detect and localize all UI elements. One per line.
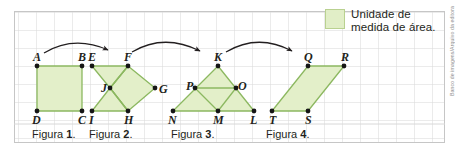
caption-figura-3: Figura 3. [171, 129, 214, 140]
vertex-label-j: J [101, 82, 107, 94]
vertex-label-g: G [159, 83, 168, 95]
vertex-label-q: Q [304, 51, 313, 63]
vertex-label-k: K [214, 51, 222, 63]
caption-2-suffix: . [129, 128, 132, 140]
vertex-point-r [342, 64, 347, 69]
vertex-label-b: B [78, 51, 86, 63]
vertex-point-f [126, 64, 131, 69]
caption-figura-4: Figura 4. [266, 129, 309, 140]
caption-figura-1: Figura 1. [32, 129, 75, 140]
vertex-label-s: S [305, 114, 312, 126]
vertex-label-i: I [89, 114, 94, 126]
vertex-label-o: O [238, 80, 247, 92]
vertex-point-q [306, 64, 311, 69]
vertex-point-k [216, 64, 221, 69]
vertex-label-d: D [32, 114, 41, 126]
caption-3-suffix: . [211, 128, 214, 140]
vertex-label-e: E [88, 51, 96, 63]
square-abcd [37, 66, 82, 111]
area-unit-legend: Unidade de medida de área. [325, 8, 436, 34]
vertex-label-t: T [269, 114, 276, 126]
vertex-label-h: H [124, 114, 133, 126]
caption-1-suffix: . [72, 128, 75, 140]
vertex-point-e [90, 64, 95, 69]
unit-area-swatch-icon [325, 9, 345, 29]
legend-line-1: Unidade de [351, 8, 436, 21]
legend-line-2: medida de área. [351, 21, 436, 34]
vertex-label-r: R [341, 51, 349, 63]
caption-2-prefix: Figura [89, 128, 123, 140]
vertex-label-m: M [213, 114, 224, 126]
vertex-point-b [80, 64, 85, 69]
image-credit-text: Banco de imagens/Arquivo da editora [449, 6, 455, 96]
image-credit: Banco de imagens/Arquivo da editora [446, 6, 458, 136]
caption-3-prefix: Figura [171, 128, 205, 140]
caption-1-prefix: Figura [32, 128, 66, 140]
vertex-label-c: C [78, 114, 86, 126]
figure-diagram: A B C D E F G H I J K L M N O P Q R S T … [0, 0, 459, 152]
figure-1-shape [35, 64, 85, 114]
vertex-label-a: A [33, 51, 41, 63]
caption-4-suffix: . [306, 128, 309, 140]
vertex-label-p: P [186, 80, 193, 92]
vertex-label-n: N [168, 114, 177, 126]
caption-figura-2: Figura 2. [89, 129, 132, 140]
vertex-label-l: L [250, 114, 257, 126]
vertex-point-g [153, 86, 158, 91]
vertex-label-f: F [124, 51, 132, 63]
caption-4-prefix: Figura [266, 128, 300, 140]
legend-text-block: Unidade de medida de área. [351, 8, 436, 34]
vertex-point-a [35, 64, 40, 69]
vertex-point-j [108, 86, 113, 91]
